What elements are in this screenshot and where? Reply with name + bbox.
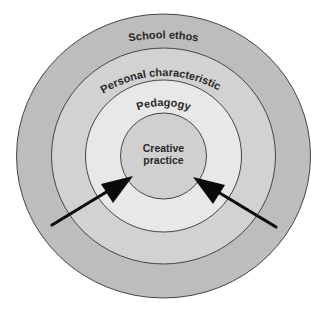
concentric-circle-diagram: School ethos Personal characteristics Pe… bbox=[0, 0, 329, 310]
label-practice: practice bbox=[143, 154, 183, 166]
label-creative: Creative bbox=[143, 142, 185, 154]
